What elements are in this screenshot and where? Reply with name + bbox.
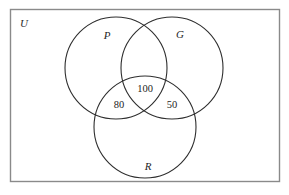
universe-rectangle	[11, 10, 280, 182]
venn-diagram-canvas: U P G R 100 80 50	[0, 0, 289, 195]
universe-label: U	[20, 17, 29, 29]
set-label-g: G	[176, 28, 184, 40]
region-value-p-r: 80	[114, 99, 125, 110]
region-value-p-g-r: 100	[137, 83, 153, 94]
region-value-g-r: 50	[167, 99, 178, 110]
venn-diagram-figure: U P G R 100 80 50	[0, 0, 289, 195]
set-label-p: P	[103, 29, 111, 41]
set-label-r: R	[144, 160, 152, 172]
